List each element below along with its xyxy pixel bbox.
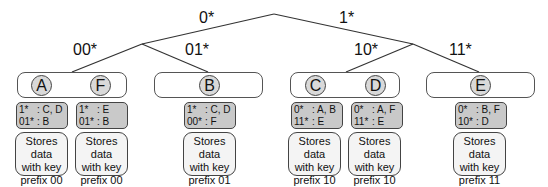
table-key: 01* bbox=[19, 116, 37, 128]
node-a: A bbox=[31, 75, 52, 96]
store-line: prefix 01 bbox=[184, 174, 235, 187]
table-key: 1* bbox=[79, 104, 97, 116]
node-e: E bbox=[470, 75, 491, 96]
store-line: with key bbox=[349, 161, 400, 174]
edge-label-10: 10* bbox=[354, 42, 378, 58]
table-key: 0* bbox=[294, 104, 312, 116]
storage-box-c: Stores data with key prefix 10 bbox=[288, 132, 341, 176]
table-key: 10* bbox=[458, 116, 476, 128]
table-value: : B bbox=[97, 116, 109, 128]
store-line: prefix 00 bbox=[76, 174, 127, 187]
edge-label-11: 11* bbox=[449, 42, 472, 58]
store-line: prefix 00 bbox=[16, 174, 67, 187]
table-value: : C, D bbox=[205, 104, 231, 116]
store-line: Stores data bbox=[76, 135, 127, 161]
store-line: prefix 11 bbox=[454, 174, 505, 187]
edge-label-0: 0* bbox=[199, 10, 214, 26]
storage-box-b: Stores data with key prefix 01 bbox=[183, 132, 236, 176]
routing-table-a: 1*: C, D 01*: B bbox=[16, 102, 68, 129]
node-f: F bbox=[90, 75, 111, 96]
store-line: prefix 10 bbox=[349, 174, 400, 187]
store-line: with key bbox=[76, 161, 127, 174]
table-key: 01* bbox=[79, 116, 97, 128]
table-value: : E bbox=[372, 116, 384, 128]
table-value: : E bbox=[312, 116, 324, 128]
table-value: : C, D bbox=[37, 104, 63, 116]
store-line: Stores data bbox=[454, 135, 505, 161]
table-key: 0* bbox=[458, 104, 476, 116]
routing-table-b: 1*: C, D 00*: F bbox=[184, 102, 236, 129]
table-value: : F bbox=[205, 116, 217, 128]
node-d: D bbox=[365, 75, 386, 96]
routing-table-e: 0*: B, F 10*: D bbox=[455, 102, 507, 129]
table-value: : B bbox=[37, 116, 49, 128]
table-value: : A, B bbox=[312, 104, 336, 116]
routing-table-c: 0*: A, B 11*: E bbox=[291, 102, 343, 129]
store-line: Stores data bbox=[16, 135, 67, 161]
store-line: with key bbox=[454, 161, 505, 174]
table-key: 00* bbox=[187, 116, 205, 128]
table-key: 11* bbox=[294, 116, 312, 128]
table-key: 1* bbox=[19, 104, 37, 116]
store-line: Stores data bbox=[289, 135, 340, 161]
store-line: with key bbox=[16, 161, 67, 174]
storage-box-f: Stores data with key prefix 00 bbox=[75, 132, 128, 176]
store-line: with key bbox=[184, 161, 235, 174]
table-value: : A, F bbox=[372, 104, 395, 116]
routing-table-d: 0*: A, F 11*: E bbox=[351, 102, 403, 129]
table-value: : B, F bbox=[476, 104, 500, 116]
store-line: Stores data bbox=[184, 135, 235, 161]
node-b: B bbox=[199, 75, 220, 96]
table-key: 1* bbox=[187, 104, 205, 116]
store-line: prefix 10 bbox=[289, 174, 340, 187]
node-c: C bbox=[305, 75, 326, 96]
edge-label-01: 01* bbox=[185, 42, 209, 58]
table-value: : D bbox=[476, 116, 489, 128]
storage-box-a: Stores data with key prefix 00 bbox=[15, 132, 68, 176]
table-value: : E bbox=[97, 104, 109, 116]
routing-table-f: 1*: E 01*: B bbox=[76, 102, 128, 129]
edge-label-1: 1* bbox=[339, 10, 354, 26]
storage-box-e: Stores data with key prefix 11 bbox=[453, 132, 506, 176]
store-line: Stores data bbox=[349, 135, 400, 161]
table-key: 0* bbox=[354, 104, 372, 116]
storage-box-d: Stores data with key prefix 10 bbox=[348, 132, 401, 176]
edge-label-00: 00* bbox=[73, 42, 97, 58]
store-line: with key bbox=[289, 161, 340, 174]
table-key: 11* bbox=[354, 116, 372, 128]
